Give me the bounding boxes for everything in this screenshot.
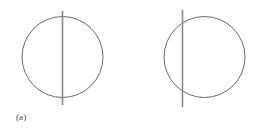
figure-panel-a: (a) (0, 0, 133, 134)
circle-chord-drawing (134, 0, 267, 134)
circle-outline-b (164, 17, 245, 98)
figure-panel-b: (b) (134, 0, 267, 134)
panel-caption-a: (a) (16, 112, 26, 123)
figure-canvas: (a) (b) (0, 0, 267, 134)
